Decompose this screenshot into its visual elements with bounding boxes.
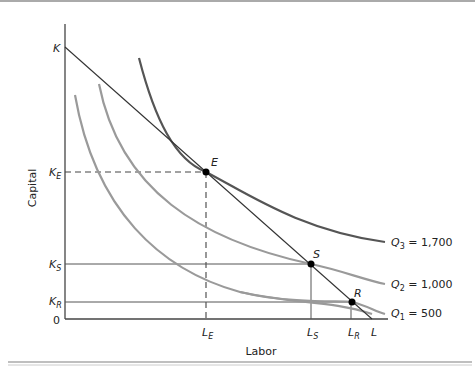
x-tick-ls: LS — [307, 326, 318, 341]
x-tick-lr: LR — [348, 326, 360, 341]
y-axis-label: Capital — [26, 169, 39, 208]
isocost-line — [65, 47, 372, 319]
point-r-label: R — [354, 287, 362, 300]
y-tick-ks: KS — [49, 258, 61, 273]
point-e-label: E — [211, 156, 218, 169]
x-tick-le: LE — [202, 326, 214, 341]
isoquant-q2-label: Q2 = 1,000 — [391, 278, 452, 293]
x-axis-label: Labor — [245, 345, 277, 358]
isoquant-q2-curve — [99, 84, 385, 284]
point-e — [203, 169, 210, 176]
y-tick-ke: KE — [49, 166, 62, 181]
isoquant-q3-curve — [139, 58, 385, 242]
isoquant-q1-curve — [75, 95, 372, 314]
isoquant-q3-label: Q3 = 1,700 — [391, 236, 452, 251]
point-s-label: S — [313, 248, 320, 261]
x-tick-l: L — [371, 326, 377, 339]
origin-label: 0 — [53, 314, 60, 327]
point-s — [308, 261, 315, 268]
isoquant-isocost-diagram: E S R K KE KS KR 0 Capital LE LS LR L La… — [0, 0, 475, 378]
isoquant-q1-label: Q1 = 500 — [391, 307, 442, 322]
y-tick-k: K — [53, 42, 61, 55]
y-tick-kr: KR — [49, 295, 62, 310]
